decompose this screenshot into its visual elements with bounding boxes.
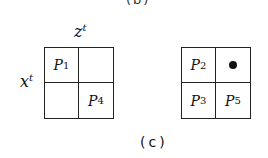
cell-p1: P1 [45, 48, 79, 83]
panel-b-label: (b) [126, 0, 150, 7]
right-grid: P2 P3 P5 [181, 47, 251, 119]
cell-p5: P5 [216, 83, 250, 118]
cell-dot [216, 48, 250, 83]
cell-p3: P3 [182, 83, 216, 118]
cell-p4: P4 [79, 83, 113, 118]
figure-caption: (c) [140, 134, 168, 150]
z-axis-label: zt [74, 22, 86, 41]
cell-empty [45, 83, 79, 118]
dot-marker-icon [229, 61, 237, 69]
left-grid: P1 P4 [44, 47, 114, 119]
cell-p2: P2 [182, 48, 216, 83]
x-axis-label: xt [20, 72, 33, 91]
cell-empty [79, 48, 113, 83]
